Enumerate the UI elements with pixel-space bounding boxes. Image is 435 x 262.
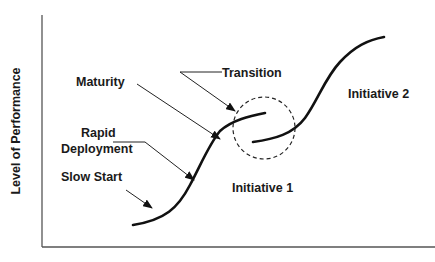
rapid-deployment-arrow [145,142,194,180]
transition-circle [233,97,295,159]
initiative-2-label: Initiative 2 [348,87,409,101]
initiative-1-label: Initiative 1 [232,181,293,195]
y-axis-label: Level of Performance [9,67,23,194]
rapid-label: Rapid [81,126,116,140]
s-curve-diagram [0,0,435,262]
initiative-1-curve [133,113,265,225]
deployment-label: Deployment [61,142,133,156]
maturity-label: Maturity [76,75,125,89]
transition-label: Transition [222,66,282,80]
slow-start-arrow [126,190,152,208]
slow-start-label: Slow Start [61,170,122,184]
maturity-arrow [137,84,220,139]
